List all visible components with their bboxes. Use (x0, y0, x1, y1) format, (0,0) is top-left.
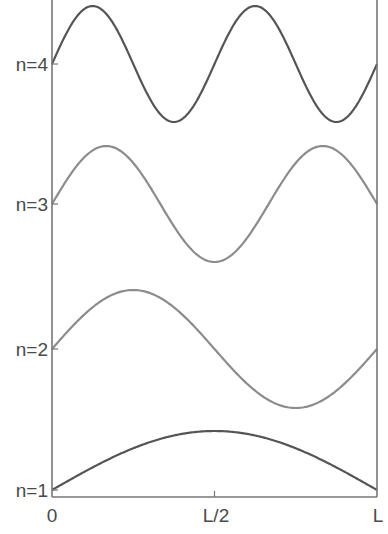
x-tick-0: 0 (47, 505, 58, 526)
wave-n2 (52, 290, 377, 408)
x-tick-L: L (373, 505, 384, 526)
label-n3: n=3 (16, 194, 48, 215)
wave-n1 (52, 431, 377, 490)
wave-n3 (52, 146, 377, 262)
wave-n4 (52, 6, 377, 122)
label-n1: n=1 (16, 480, 48, 501)
x-tick-mid: L/2 (203, 505, 229, 526)
label-n2: n=2 (16, 339, 48, 360)
standing-wave-chart: n=4 n=3 n=2 n=1 0 L/2 L (0, 0, 388, 534)
wave-curves (52, 6, 377, 490)
label-n4: n=4 (16, 54, 49, 75)
